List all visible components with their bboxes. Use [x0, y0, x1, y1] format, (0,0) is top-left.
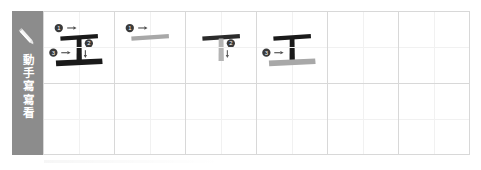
svg-text:1: 1 — [128, 25, 131, 31]
grid-cell-blank[interactable] — [328, 12, 399, 84]
character-glyph-stroke-2: 2 — [186, 12, 256, 83]
svg-text:1: 1 — [57, 25, 60, 31]
grid-cell-blank[interactable] — [257, 84, 328, 156]
svg-text:2: 2 — [87, 40, 90, 46]
grid-cell-blank[interactable] — [399, 84, 470, 156]
activity-label-text: 動手寫寫看 — [21, 54, 35, 120]
grid-cell-blank[interactable] — [186, 84, 257, 156]
character-glyph-stroke-3: 3 — [257, 12, 327, 83]
character-glyph-complete: 1 2 3 — [44, 12, 114, 83]
activity-label-bar: 動手寫寫看 — [12, 11, 43, 155]
writing-practice-worksheet: 動手寫寫看 1 — [0, 0, 481, 170]
grid-cell-full-character[interactable]: 1 2 3 — [44, 12, 115, 84]
grid-cell-blank[interactable] — [44, 84, 115, 156]
grid-cell-blank[interactable] — [115, 84, 186, 156]
grid-cell-blank[interactable] — [399, 12, 470, 84]
grid-cell-stroke-2[interactable]: 2 — [186, 12, 257, 84]
page-shadow — [44, 160, 224, 163]
grid-cell-stroke-1[interactable]: 1 — [115, 12, 186, 84]
svg-text:2: 2 — [229, 40, 232, 46]
pencil-icon — [16, 25, 40, 51]
grid-cell-stroke-3[interactable]: 3 — [257, 12, 328, 84]
grid-cell-blank[interactable] — [328, 84, 399, 156]
practice-grid: 1 2 3 — [43, 11, 470, 155]
character-glyph-stroke-1: 1 — [115, 12, 185, 83]
